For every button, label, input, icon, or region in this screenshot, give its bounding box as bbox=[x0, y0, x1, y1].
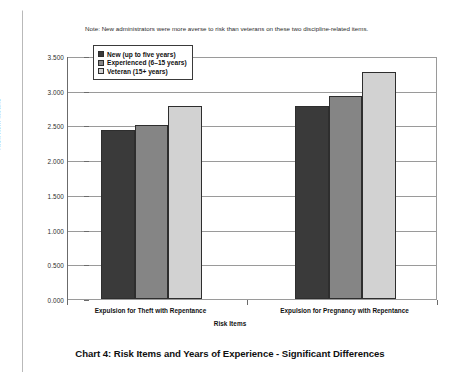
legend-item-veteran: Veteran (15+ years) bbox=[98, 68, 187, 75]
chart-caption: Chart 4: Risk Items and Years of Experie… bbox=[0, 348, 460, 359]
y-tick-mark bbox=[84, 126, 89, 127]
y-tick-label: 1.500 bbox=[28, 192, 64, 199]
y-tick-mark bbox=[84, 161, 89, 162]
y-tick-mark bbox=[84, 265, 89, 266]
x-category-label: Expulsion for Pregnancy with Repentance bbox=[280, 307, 409, 314]
x-tick-mark bbox=[247, 300, 248, 305]
bar bbox=[135, 125, 169, 299]
plot-area bbox=[67, 57, 437, 300]
y-tick-label: 0.500 bbox=[28, 262, 64, 269]
y-tick-label: 2.500 bbox=[28, 123, 64, 130]
legend-swatch-experienced bbox=[98, 60, 104, 66]
legend-label-new: New (up to five years) bbox=[107, 51, 176, 58]
x-tick-mark bbox=[67, 300, 68, 305]
bar bbox=[362, 72, 396, 299]
y-tick-mark bbox=[84, 57, 89, 58]
legend-label-veteran: Veteran (15+ years) bbox=[107, 68, 168, 75]
bar bbox=[295, 106, 329, 299]
y-tick-label: 3.000 bbox=[28, 88, 64, 95]
bar bbox=[168, 106, 202, 299]
legend-swatch-veteran bbox=[98, 68, 104, 74]
y-tick-label: 1.000 bbox=[28, 227, 64, 234]
y-tick-label: 3.500 bbox=[28, 54, 64, 61]
legend-item-experienced: Experienced (6–15 years) bbox=[98, 59, 187, 66]
y-tick-mark bbox=[84, 300, 89, 301]
chart-legend: New (up to five years) Experienced (6–15… bbox=[93, 45, 193, 80]
chart-note: Note: New administrators were more avers… bbox=[85, 24, 455, 33]
y-axis-line bbox=[67, 57, 68, 301]
bar bbox=[329, 96, 363, 299]
y-tick-mark bbox=[84, 92, 89, 93]
y-tick-mark bbox=[84, 231, 89, 232]
x-axis-title: Risk Items bbox=[0, 320, 460, 327]
x-category-label: Expulsion for Theft with Repentance bbox=[95, 307, 206, 314]
y-axis-title: Risk Item Means bbox=[0, 98, 1, 150]
bar bbox=[101, 130, 135, 299]
legend-label-experienced: Experienced (6–15 years) bbox=[107, 59, 187, 66]
y-tick-mark bbox=[84, 196, 89, 197]
y-tick-label: 0.000 bbox=[28, 297, 64, 304]
x-tick-mark bbox=[437, 300, 438, 305]
y-tick-label: 2.000 bbox=[28, 158, 64, 165]
legend-swatch-new bbox=[98, 51, 104, 57]
legend-item-new: New (up to five years) bbox=[98, 51, 187, 58]
plot-inner bbox=[68, 58, 436, 299]
